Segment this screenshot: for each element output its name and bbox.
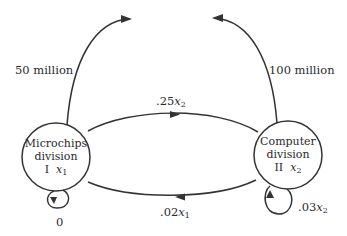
node-microchips-name-line1: Microchips [20, 137, 92, 150]
node-microchips-id: I x1 [20, 163, 92, 179]
external-demand-arrow-computer [214, 18, 277, 123]
self-loop-label-computer-coef: .03 [298, 200, 316, 214]
arrowhead-down-icon [50, 197, 57, 204]
flow-label-i-to-ii: .25x2 [156, 96, 186, 109]
self-loop-label-microchips: 0 [56, 217, 63, 229]
node-computer-name-line1: Computer [252, 135, 324, 148]
node-computer-roman: II [274, 161, 283, 174]
input-output-diagram: Microchips division I x1 Computer divisi… [0, 0, 347, 236]
node-microchips-label: Microchips division I x1 [20, 137, 92, 179]
node-microchips-subscript: 1 [62, 168, 67, 177]
node-microchips-roman: I [45, 163, 49, 176]
node-microchips-name-line2: division [20, 150, 92, 163]
flow-label-ii-to-i-sub: 1 [185, 211, 190, 220]
node-computer-name-line2: division [252, 148, 324, 161]
external-demand-label-microchips: 50 million [15, 65, 73, 77]
external-demand-label-computer: 100 million [269, 65, 335, 77]
self-loop-microchips [48, 190, 69, 208]
self-loop-label-computer-sub: 2 [323, 206, 328, 215]
diagram-canvas [0, 0, 347, 236]
external-demand-arrow-microchips [67, 19, 130, 125]
arrowhead-right-icon [170, 111, 180, 118]
flow-label-i-to-ii-coef: .25 [156, 94, 174, 108]
self-loop-label-computer: .03x2 [298, 202, 328, 215]
node-computer-id: II x2 [252, 161, 324, 177]
flow-label-ii-to-i-coef: .02 [160, 205, 178, 219]
flow-arrow-ii-to-i [88, 180, 256, 195]
flow-label-i-to-ii-sub: 2 [181, 100, 186, 109]
self-loop-computer [265, 186, 292, 214]
flow-label-ii-to-i: .02x1 [160, 207, 190, 220]
arrowhead-right-icon [121, 15, 132, 23]
node-computer-subscript: 2 [296, 166, 301, 175]
arrowhead-left-icon [212, 14, 223, 22]
node-computer-label: Computer division II x2 [252, 135, 324, 177]
arrowhead-up-icon [266, 190, 274, 198]
